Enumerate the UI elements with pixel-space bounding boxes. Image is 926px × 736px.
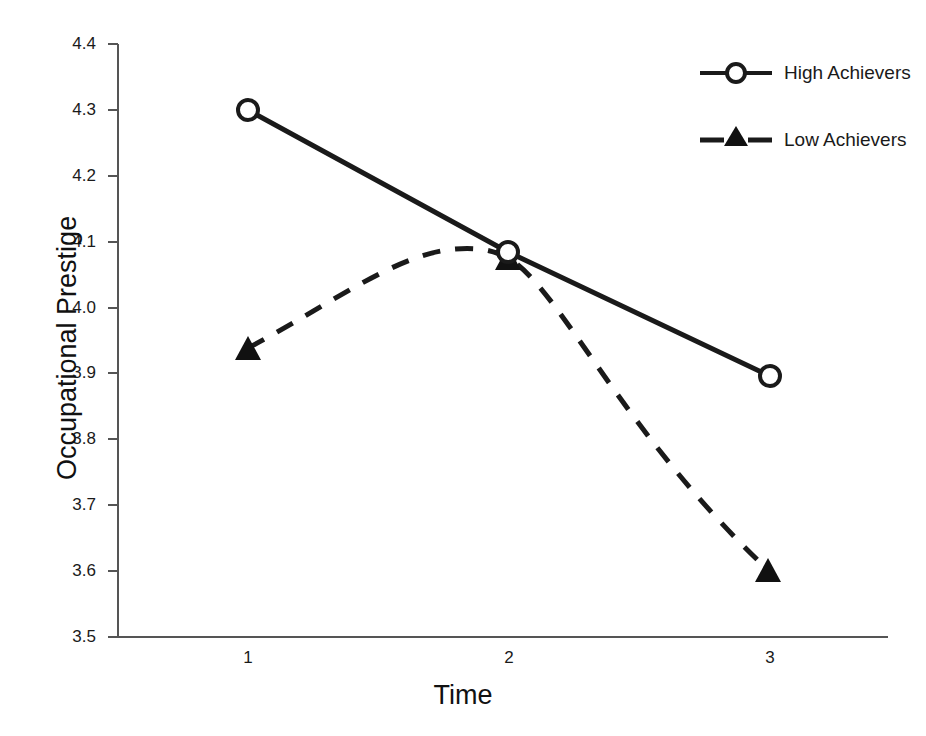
data-point-high-t3 bbox=[760, 366, 780, 386]
data-point-high-t1 bbox=[238, 100, 258, 120]
legend-sample-high-achievers bbox=[700, 64, 772, 82]
data-point-low-t3 bbox=[755, 558, 781, 582]
x-tick-label-2: 2 bbox=[489, 648, 529, 668]
legend-label-high-achievers: High Achievers bbox=[784, 62, 911, 84]
chart-canvas bbox=[0, 0, 926, 736]
x-tick-label-1: 1 bbox=[228, 648, 268, 668]
y-axis-ticks bbox=[108, 44, 118, 637]
y-tick-label-3-7: 3.7 bbox=[40, 495, 96, 515]
series-low-achievers-line bbox=[248, 248, 768, 570]
x-axis-title: Time bbox=[0, 680, 926, 711]
y-tick-label-3-6: 3.6 bbox=[40, 561, 96, 581]
y-tick-label-4-2: 4.2 bbox=[40, 166, 96, 186]
data-point-low-t1 bbox=[235, 336, 261, 360]
data-point-high-t2 bbox=[498, 242, 518, 262]
y-tick-label-4-3: 4.3 bbox=[40, 100, 96, 120]
line-chart: 4.4 4.3 4.2 4.1 4.0 3.9 3.8 3.7 3.6 3.5 … bbox=[0, 0, 926, 736]
y-tick-label-3-5: 3.5 bbox=[40, 627, 96, 647]
legend-label-low-achievers: Low Achievers bbox=[784, 129, 907, 151]
x-tick-label-3: 3 bbox=[750, 648, 790, 668]
series-low-achievers-markers bbox=[235, 246, 781, 582]
y-tick-label-4-4: 4.4 bbox=[40, 34, 96, 54]
legend-sample-low-achievers bbox=[700, 126, 772, 146]
y-axis-title: Occupational Prestige bbox=[52, 216, 83, 480]
